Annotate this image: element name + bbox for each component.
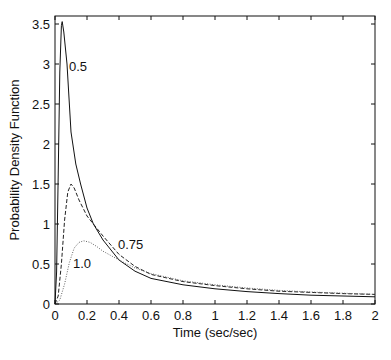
y-axis-label: Probability Density Function [7, 79, 22, 240]
y-tick-label: 1 [43, 217, 50, 232]
curve-dashed-0-75 [55, 184, 375, 304]
x-tick-label: 0.2 [78, 308, 96, 323]
curve-label-0-5: 0.5 [69, 59, 87, 74]
x-tick-label: 1.4 [270, 308, 288, 323]
y-tick-label: 2.5 [32, 97, 50, 112]
curve-label-1-0: 1.0 [73, 256, 91, 271]
x-tick-label: 0.4 [110, 308, 128, 323]
x-tick-label: 1.8 [334, 308, 352, 323]
y-tick-label: 0.5 [32, 257, 50, 272]
x-axis-ticks: 00.20.40.60.811.21.41.61.82 [51, 16, 378, 323]
x-tick-label: 0.6 [142, 308, 160, 323]
plot-frame [55, 16, 375, 304]
y-tick-label: 1.5 [32, 177, 50, 192]
y-tick-label: 3.5 [32, 17, 50, 32]
y-tick-label: 0 [43, 297, 50, 312]
x-tick-label: 0 [51, 308, 58, 323]
x-tick-label: 1.6 [302, 308, 320, 323]
pdf-chart: 00.20.40.60.811.21.41.61.82 00.511.522.5… [0, 0, 391, 360]
curves [55, 22, 375, 304]
x-tick-label: 1.2 [238, 308, 256, 323]
y-tick-label: 2 [43, 137, 50, 152]
x-tick-label: 2 [371, 308, 378, 323]
curve-label-0-75: 0.75 [118, 237, 143, 252]
x-tick-label: 1 [211, 308, 218, 323]
curve-dotted-1-0 [55, 241, 375, 304]
curve-solid-0-5 [55, 22, 375, 304]
x-axis-label: Time (sec/sec) [173, 325, 258, 340]
x-tick-label: 0.8 [174, 308, 192, 323]
y-tick-label: 3 [43, 57, 50, 72]
